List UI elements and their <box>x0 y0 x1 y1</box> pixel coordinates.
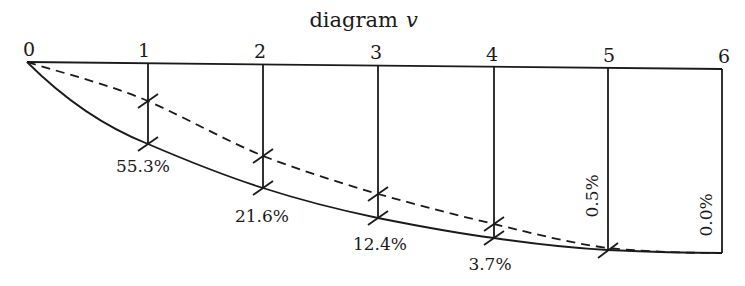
station-label-2: 2 <box>254 40 266 62</box>
pct-label-5: 0.5% <box>582 174 602 217</box>
pct-label-3: 12.4% <box>353 234 407 254</box>
pct-label-1: 55.3% <box>116 156 170 176</box>
station-label-1: 1 <box>138 39 150 61</box>
station-label-4: 4 <box>486 43 498 65</box>
influence-diagram: diagram v 0 1 2 3 4 5 6 55.3% <box>0 0 745 286</box>
pct-label-6: 0.0% <box>696 193 716 236</box>
top-reference-line <box>27 62 722 69</box>
diagram-title: diagram <box>309 8 398 32</box>
station-label-0: 0 <box>23 38 35 60</box>
percentage-labels: 55.3% 21.6% 12.4% 3.7% 0.5% 0.0% <box>116 156 716 274</box>
station-label-3: 3 <box>370 41 382 63</box>
pct-label-4: 3.7% <box>468 254 511 274</box>
station-label-6: 6 <box>718 45 730 67</box>
pct-label-2: 21.6% <box>235 206 289 226</box>
diagram-title-variable: v <box>406 8 418 32</box>
station-label-5: 5 <box>603 44 615 66</box>
